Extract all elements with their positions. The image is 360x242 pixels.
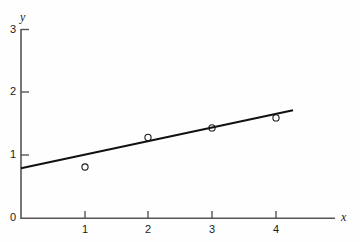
x-axis-label: x <box>341 211 346 223</box>
y-axis-ticks <box>21 30 29 156</box>
x-tick-label-1: 1 <box>78 224 92 235</box>
y-axis-label: y <box>20 11 25 23</box>
x-axis-ticks <box>85 211 276 218</box>
data-point-4 <box>273 115 279 121</box>
data-point-markers <box>82 115 279 170</box>
y-tick-label-0: 0 <box>2 212 16 223</box>
data-point-1 <box>82 164 88 170</box>
scatter-plot-canvas <box>0 0 360 242</box>
chart-figure: 3 2 1 0 1 2 3 4 y x <box>0 0 360 242</box>
x-tick-label-4: 4 <box>269 224 283 235</box>
y-tick-label-3: 3 <box>2 24 16 35</box>
data-point-2 <box>145 134 151 140</box>
y-tick-label-1: 1 <box>2 149 16 160</box>
fitted-regression-line <box>21 110 293 168</box>
x-tick-label-3: 3 <box>205 224 219 235</box>
y-tick-label-2: 2 <box>2 86 16 97</box>
x-tick-label-2: 2 <box>141 224 155 235</box>
